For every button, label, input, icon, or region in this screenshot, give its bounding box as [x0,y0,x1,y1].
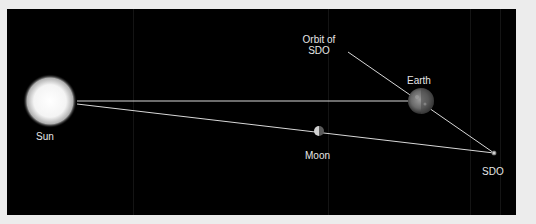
sun-label: Sun [36,131,54,142]
orbit-of-sdo-label: Orbit of SDO [299,34,339,56]
moon-icon [314,126,324,136]
sdo-icon [492,151,497,156]
earth-icon [408,88,434,114]
earth-label: Earth [407,75,431,86]
sun-icon [23,74,77,128]
sdo-label: SDO [482,166,504,177]
moon-label: Moon [305,150,330,161]
sun-sdo-line [77,104,494,153]
orbit-label-line2: SDO [299,45,339,56]
scene-graphic [0,0,536,224]
orbit-label-line1: Orbit of [299,34,339,45]
